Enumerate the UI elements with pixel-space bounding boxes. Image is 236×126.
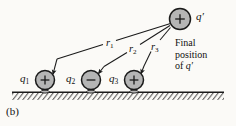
final-position-line-2: position <box>175 49 207 61</box>
charge-label-q2: q2 <box>66 73 75 85</box>
distance-arrow-r3 <box>141 66 144 74</box>
final-position-note: Final position of q′ <box>175 37 207 72</box>
charge-circle-q3 <box>125 71 144 90</box>
distance-label-r1: r1 <box>106 38 114 50</box>
physics-figure-panel-b: q1 q2 q3 q′ r1 r2 r3 Final position of q… <box>0 0 236 126</box>
final-position-line-3: of q′ <box>175 60 207 72</box>
final-position-line-1: Final <box>175 37 207 49</box>
charge-circle-q1 <box>36 71 55 90</box>
distance-label-r3: r3 <box>151 42 159 54</box>
charge-label-q3: q3 <box>109 73 118 85</box>
charge-circle-q2 <box>82 71 101 90</box>
charge-circle-q-prime <box>170 9 191 30</box>
distance-arrow-r1 <box>53 59 57 74</box>
distance-arrow-r2 <box>99 67 105 74</box>
distance-label-r2: r2 <box>129 44 137 56</box>
charge-label-q-prime: q′ <box>196 11 204 22</box>
charge-label-q1: q1 <box>20 73 29 85</box>
panel-label: (b) <box>6 106 19 117</box>
